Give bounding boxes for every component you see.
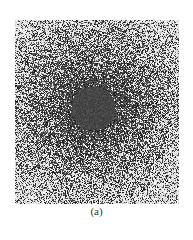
speckle-figure bbox=[15, 20, 179, 204]
figure-caption: (a) bbox=[0, 205, 193, 217]
radial-speckle-image bbox=[15, 20, 179, 204]
